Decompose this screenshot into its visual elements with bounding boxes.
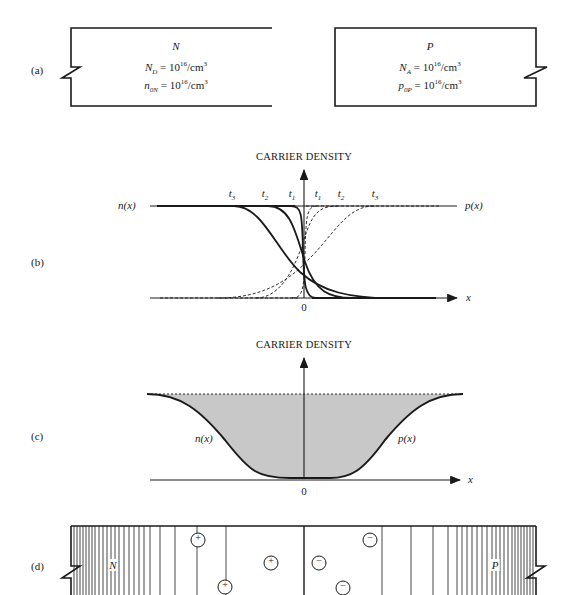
n-region-donor-density: ND = 1016/cm3 [145,60,207,76]
panel-b-p-curve-label: p(x) [465,199,483,211]
time-label-t2-left: t2 [262,187,269,202]
panel-b-label: (b) [31,256,44,268]
n-region-electron-density: n0N = 1016/cm3 [144,78,207,94]
time-label-t1-left: t1 [289,187,296,202]
n-region-label: N [108,559,117,571]
panel-c-x-axis-label: x [468,473,473,485]
panel-d-junction [62,526,545,595]
p-region-acceptor-density: NA = 1016/cm3 [399,60,460,76]
panel-c-y-axis-title: CARRIER DENSITY [256,339,352,350]
panel-c-origin-label: 0 [301,485,307,497]
p-region-title: P [427,40,434,52]
panel-c-label: (c) [31,430,43,442]
time-label-t2-right: t2 [338,187,345,202]
negative-ion-symbol: − [340,580,346,591]
negative-ion-symbol: − [316,555,322,566]
positive-ion-symbol: + [268,555,274,566]
panel-b-origin-label: 0 [301,301,307,313]
time-label-t3-left: t3 [229,187,236,202]
time-label-t3-right: t3 [372,187,379,202]
time-label-t1-right: t1 [315,187,322,202]
panel-d-label: (d) [31,560,44,572]
n-region-title: N [172,40,179,52]
panel-b-x-axis-label: x [466,291,471,303]
p-region-label: P [491,559,500,571]
positive-ion-symbol: + [195,532,201,543]
p-region-hole-density: p0P = 1016/cm3 [399,78,462,94]
negative-ion-symbol: − [367,532,373,543]
panel-c-n-curve-label: n(x) [195,432,213,444]
panel-c-plot [147,358,463,480]
panel-b-n-curve-label: n(x) [118,199,136,211]
panel-b-plot [150,170,457,298]
panel-c-p-curve-label: p(x) [398,432,416,444]
panel-a-label: (a) [31,64,43,76]
positive-ion-symbol: + [222,579,228,590]
panel-b-y-axis-title: CARRIER DENSITY [256,151,352,162]
diagram-artwork [0,0,561,595]
